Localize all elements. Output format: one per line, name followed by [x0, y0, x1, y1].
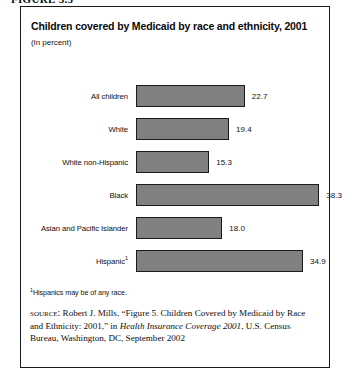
bar-segment	[136, 250, 303, 272]
bar-segment	[136, 151, 209, 173]
bar-category-label: White	[29, 125, 128, 134]
bar-category-footnote-marker: 1	[125, 255, 128, 261]
bar-segment	[136, 184, 319, 206]
bar-category-label: Hispanic1	[29, 257, 128, 266]
bar-track: 18.0	[136, 217, 319, 239]
chart-title: Children covered by Medicaid by race and…	[31, 20, 319, 32]
bar-value-label: 15.3	[216, 158, 232, 167]
table-row: All children 22.7	[29, 85, 319, 107]
bar-segment	[136, 217, 222, 239]
bar-category-label: Black	[29, 191, 128, 200]
bar-track: 34.9	[136, 250, 319, 272]
bar-category-label: White non-Hispanic	[29, 158, 128, 167]
table-row: White non-Hispanic 15.3	[29, 151, 319, 173]
figure-inner: Children covered by Medicaid by race and…	[21, 7, 329, 367]
bar-track: 15.3	[136, 151, 319, 173]
bar-value-label: 34.9	[310, 257, 326, 266]
source-label: source:	[30, 307, 60, 318]
bar-segment	[136, 85, 245, 107]
source-note: source: Robert J. Mills, “Figure 5. Chil…	[30, 307, 318, 344]
table-row: Black 38.3	[29, 184, 319, 206]
bar-value-label: 22.7	[252, 92, 268, 101]
chart-subtitle-units: (In percent)	[31, 38, 319, 47]
bar-track: 38.3	[136, 184, 319, 206]
bar-category-label: Asian and Pacific Islander	[29, 224, 128, 233]
bar-track: 19.4	[136, 118, 319, 140]
bar-category-label: All children	[29, 92, 128, 101]
bar-value-label: 38.3	[326, 191, 342, 200]
table-row: Hispanic1 34.9	[29, 250, 319, 272]
table-row: Asian and Pacific Islander 18.0	[29, 217, 319, 239]
footnote: 1Hispanics may be of any race.	[30, 288, 317, 297]
bar-value-label: 19.4	[236, 125, 252, 134]
source-publication-title: Health Insurance Coverage 2001	[120, 321, 241, 331]
bar-segment	[136, 118, 229, 140]
figure-number-label: FIGURE 5.5	[11, 0, 73, 5]
figure-container: Children covered by Medicaid by race and…	[20, 6, 330, 368]
bar-value-label: 18.0	[229, 224, 245, 233]
footnote-text: Hispanics may be of any race.	[33, 288, 127, 297]
table-row: White 19.4	[29, 118, 319, 140]
bar-track: 22.7	[136, 85, 319, 107]
bar-chart-plot-area: All children 22.7 White 19.4 White non-H…	[29, 85, 319, 283]
